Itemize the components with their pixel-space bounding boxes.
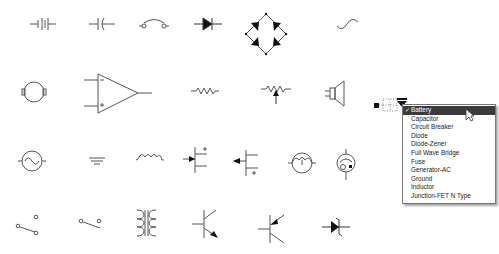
menu-item-battery[interactable]: ✓Battery [403,106,495,115]
motor-symbol[interactable] [19,80,49,104]
jfet-n-icon [181,145,211,175]
generator-ac-icon [17,149,47,173]
potentiometer-symbol[interactable] [260,84,292,106]
mouse-cursor-icon [465,108,475,126]
menu-item-diode[interactable]: Diode [403,132,495,141]
ac-source-symbol[interactable] [336,16,360,32]
lamp-icon [287,150,317,176]
ground-icon [87,155,107,167]
battery-icon [28,16,58,32]
jfet-p-symbol[interactable] [232,148,266,178]
inductor-symbol[interactable] [135,151,165,163]
menu-item-circuit-breaker[interactable]: Circuit Breaker [403,123,495,132]
menu-item-diode-zener[interactable]: Diode-Zener [403,140,495,149]
menu-item-fuse[interactable]: Fuse [403,158,495,167]
phototransistor-symbol[interactable] [333,148,359,182]
shape-type-menu: ✓Battery Capacitor Circuit Breaker Diode… [402,104,496,204]
switch-spst-icon [78,216,104,232]
motor-icon [19,80,49,104]
inductor-icon [135,151,165,163]
diode-symbol[interactable] [193,16,223,32]
diode-icon [193,16,223,32]
speaker-symbol[interactable] [324,80,348,108]
switch-spst-symbol[interactable] [78,216,104,232]
menu-item-generator-ac[interactable]: Generator-AC [403,166,495,175]
battery-symbol[interactable] [28,16,58,32]
switch-spdt-icon [15,213,41,237]
menu-item-capacitor[interactable]: Capacitor [403,115,495,124]
transistor-npn-icon [190,207,222,241]
capacitor-icon [87,16,117,32]
transistor-pnp-symbol[interactable] [256,212,288,246]
diode-zener-symbol[interactable] [321,216,351,238]
transformer-symbol[interactable] [135,208,159,238]
switch-spdt-symbol[interactable] [15,213,41,237]
ac-source-icon [336,16,360,32]
circuit-breaker-icon [138,16,170,32]
transformer-icon [135,208,159,238]
menu-item-inductor[interactable]: Inductor [403,183,495,192]
capacitor-symbol[interactable] [87,16,117,32]
menu-item-junction-fet-n[interactable]: Junction-FET N Type [403,192,495,201]
phototransistor-icon [333,148,359,182]
circuit-breaker-symbol[interactable] [138,16,170,32]
resistor-symbol[interactable] [190,86,220,96]
jfet-n-symbol[interactable] [181,145,211,175]
op-amp-icon [83,73,153,115]
ground-symbol[interactable] [87,155,107,167]
lamp-symbol[interactable] [287,150,317,176]
speaker-icon [324,80,348,108]
check-icon: ✓ [405,106,410,115]
transistor-pnp-icon [256,212,288,246]
full-wave-bridge-symbol[interactable] [243,11,289,57]
diode-zener-icon [321,216,351,238]
jfet-p-icon [232,148,266,178]
full-wave-bridge-icon [243,11,289,57]
resistor-icon [190,86,220,96]
menu-item-ground[interactable]: Ground [403,175,495,184]
menu-item-full-wave-bridge[interactable]: Full Wave Bridge [403,149,495,158]
potentiometer-icon [260,84,292,106]
generator-ac-symbol[interactable] [17,149,47,173]
op-amp-symbol[interactable] [83,73,153,115]
transistor-npn-symbol[interactable] [190,207,222,241]
